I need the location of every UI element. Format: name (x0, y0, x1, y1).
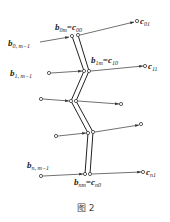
node-left-row3 (54, 134, 57, 137)
node-c01 (135, 19, 138, 22)
label-b0-m1: b0, m−1 (8, 38, 30, 49)
rail-node (76, 33, 79, 36)
rail-node (69, 99, 72, 102)
rail-node (83, 172, 86, 175)
label-bn-m1: bn, m−1 (27, 160, 49, 171)
rail-node (88, 172, 91, 175)
label-cn1: cn1 (146, 167, 156, 178)
input-wire-rown (43, 174, 83, 176)
rail-node (87, 69, 90, 72)
node-c11 (143, 64, 146, 67)
diagram: b0, m−1 b0m=c00 c01 b1, m−1 b1m=c10 c11 … (0, 0, 170, 222)
input-wire-row3 (58, 133, 86, 136)
label-bnm-cn0: bnm=cn0 (74, 177, 101, 188)
input-wire-row0 (40, 37, 69, 42)
output-wire-rown (92, 172, 141, 174)
node-right-row3 (139, 122, 142, 125)
label-b0m-c00: b0m=c00 (55, 22, 82, 33)
output-wire-row2 (78, 101, 119, 104)
input-wire-row1 (51, 71, 82, 73)
label-c11: c11 (148, 61, 158, 72)
figure-caption: 图 2 (77, 203, 95, 213)
label-b1m-c10: b1m=c10 (91, 55, 118, 66)
rail-node (70, 34, 73, 37)
input-wire-row2 (43, 99, 69, 101)
rail-node (86, 131, 89, 134)
output-wire-row1 (91, 66, 143, 71)
node-cn1 (141, 170, 144, 173)
output-wire-row0 (80, 22, 134, 35)
label-b1-m1: b1, m−1 (10, 68, 32, 79)
node-left-row2 (39, 97, 42, 100)
label-c01: c01 (140, 16, 150, 27)
node-right-row2 (119, 102, 122, 105)
node-bn-m1 (39, 174, 42, 177)
left-rail (71, 36, 88, 174)
output-wire-row3 (95, 125, 139, 132)
rail-node (74, 99, 77, 102)
node-b1-m1 (47, 71, 50, 74)
rail-node (91, 130, 94, 133)
rail-node (82, 69, 85, 72)
